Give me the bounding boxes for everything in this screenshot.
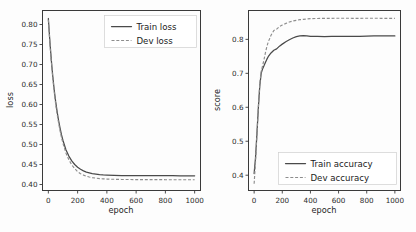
y-tick-label: 0.55 [21,120,37,129]
y-tick-label: 0.45 [21,160,37,169]
legend-label: Train loss [136,22,177,32]
figure-container: 02004006008001000 0.400.450.500.550.600.… [0,0,416,232]
score-legend: Train accuracyDev accuracy [279,153,397,185]
y-tick-label: 0.40 [21,180,37,189]
loss-legend: Train lossDev loss [105,16,197,48]
score-chart-svg: 02004006008001000 0.40.50.60.70.8 epoch … [208,0,416,232]
chart-panel-score: 02004006008001000 0.40.50.60.70.8 epoch … [208,0,416,232]
y-tick-label: 0.7 [232,69,243,78]
y-tick-label: 0.80 [21,20,37,29]
chart-panel-loss: 02004006008001000 0.400.450.500.550.600.… [0,0,208,232]
score-x-ticks: 02004006008001000 [252,191,405,205]
y-tick-label: 0.60 [21,100,37,109]
score-y-axis-label: score [212,89,222,111]
score-x-axis-label: epoch [312,205,337,215]
x-tick-label: 400 [304,196,318,205]
y-tick-label: 0.65 [21,80,37,89]
legend-label: Dev accuracy [311,173,370,183]
x-tick-label: 600 [129,196,143,205]
loss-y-axis-label: loss [5,92,15,108]
score-y-ticks: 0.40.50.60.70.8 [232,35,248,180]
x-tick-label: 200 [275,196,289,205]
loss-y-ticks: 0.400.450.500.550.600.650.700.750.80 [21,20,42,189]
y-tick-label: 0.4 [232,171,244,180]
loss-x-axis-label: epoch [109,205,134,215]
legend-label: Train accuracy [310,159,373,169]
legend-label: Dev loss [137,36,174,46]
loss-x-ticks: 02004006008001000 [46,191,204,205]
x-tick-label: 400 [100,196,114,205]
x-tick-label: 800 [159,196,173,205]
x-tick-label: 200 [71,196,85,205]
loss-chart-svg: 02004006008001000 0.400.450.500.550.600.… [0,0,208,232]
y-tick-label: 0.75 [21,40,37,49]
x-tick-label: 800 [360,196,374,205]
x-tick-label: 0 [252,196,257,205]
x-tick-label: 1000 [386,196,405,205]
y-tick-label: 0.6 [232,103,244,112]
y-tick-label: 0.70 [21,60,37,69]
y-tick-label: 0.50 [21,140,37,149]
y-tick-label: 0.5 [232,137,243,146]
x-tick-label: 0 [46,196,51,205]
y-tick-label: 0.8 [232,35,244,44]
x-tick-label: 1000 [185,196,204,205]
x-tick-label: 600 [332,196,346,205]
